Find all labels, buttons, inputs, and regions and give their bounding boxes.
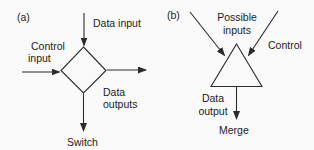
a-control-input-label-line1: Control (31, 40, 65, 52)
a-data-outputs-label-line2: outputs (103, 98, 137, 110)
b-possible-inputs-label-line2: inputs (206, 24, 268, 36)
b-data-output-label-line2: output (188, 105, 238, 117)
a-data-outputs-label-line1: Data (103, 86, 125, 98)
a-switch-diamond-shape (61, 47, 106, 93)
b-possible-inputs-label-line1: Possible (206, 11, 268, 23)
b-data-output-label-line1: Data (188, 92, 238, 104)
a-data-input-label: Data input (93, 17, 141, 29)
panel-b-tag: (b) (167, 9, 180, 21)
b-control-label: Control (268, 39, 302, 51)
a-caption-switch: Switch (67, 136, 98, 148)
b-caption-merge: Merge (219, 124, 249, 136)
switch-merge-diagram: (a) Data input Control input Data output… (0, 0, 314, 150)
panel-a-tag: (a) (17, 11, 30, 23)
a-control-input-label-line2: input (28, 52, 51, 64)
b-merge-triangle-shape (211, 44, 262, 87)
